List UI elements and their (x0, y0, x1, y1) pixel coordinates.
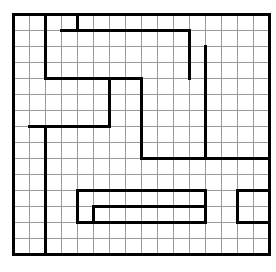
maze-background (0, 0, 276, 272)
maze-figure (0, 0, 276, 272)
maze-diagram (0, 0, 276, 272)
